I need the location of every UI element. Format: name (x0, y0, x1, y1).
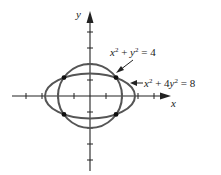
intersection-point (114, 112, 119, 117)
ellipse-label-arrow-icon (130, 80, 137, 86)
intersection-point (62, 75, 67, 80)
label-pointers (116, 60, 143, 86)
x-axis-label: x (170, 97, 176, 109)
x-axis-arrow-icon (160, 93, 171, 100)
axes (12, 20, 164, 171)
graph-canvas: y x x2 + y2 = 4 x2 + 4y2 = 8 (0, 0, 221, 175)
circle-label-arrow-icon (116, 66, 124, 73)
intersection-point (62, 112, 67, 117)
y-axis-label: y (75, 8, 81, 20)
ellipse-equation-label: x2 + 4y2 = 8 (143, 77, 196, 89)
y-axis-arrow-icon (87, 11, 94, 23)
circle-equation-label: x2 + y2 = 4 (109, 46, 156, 58)
intersection-point (114, 75, 119, 80)
